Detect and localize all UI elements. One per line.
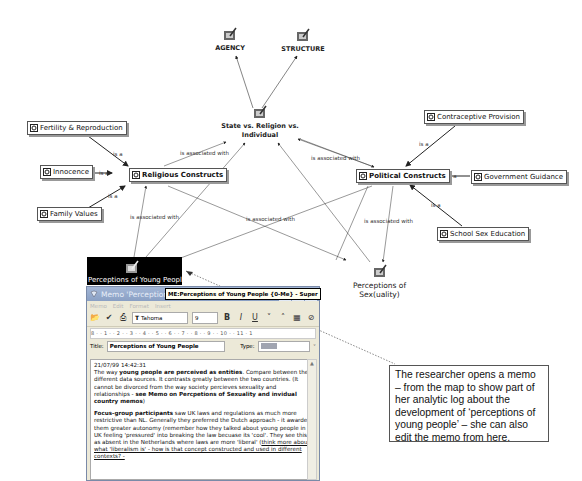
memo-paragraph: The way young people are perceived as en… bbox=[94, 369, 312, 405]
code-node-religious-constructs[interactable]: Religious Constructs bbox=[129, 168, 227, 182]
memo-paragraph: Focus-group participants saw UK laws and… bbox=[94, 410, 312, 460]
chevron-up-icon[interactable]: ˄ bbox=[278, 313, 288, 323]
code-node-school-sex-education[interactable]: School Sex Education bbox=[437, 227, 529, 241]
scroll-up-icon[interactable]: ▲ bbox=[308, 360, 316, 366]
font-size-select[interactable]: 9 bbox=[192, 312, 218, 324]
code-icon bbox=[359, 172, 367, 180]
code-node-family-values[interactable]: Family Values bbox=[37, 207, 102, 221]
folder-icon[interactable]: 📂 bbox=[90, 313, 100, 323]
chevron-down-icon[interactable]: ˅ bbox=[264, 313, 274, 323]
menu-memo[interactable]: Memo bbox=[90, 303, 107, 309]
link-label-is-a: is a bbox=[431, 202, 441, 208]
code-node-label: Government Guidance bbox=[484, 173, 563, 181]
checkmark-icon[interactable]: ✔ bbox=[104, 313, 114, 323]
paperclip-icon[interactable]: ⊘ bbox=[306, 313, 316, 323]
memo-node-label: Perceptions of Sex(uality) bbox=[353, 281, 406, 299]
memo-scrollbar[interactable]: ▲ bbox=[307, 359, 317, 480]
title-row: Title: Perceptions of Young People Type:… bbox=[87, 340, 319, 352]
ruler[interactable]: 8 · · 1 · · 2 · · 3 · · 4 · · 5 · · 6 · … bbox=[90, 328, 316, 339]
memo-node-label: AGENCY bbox=[215, 44, 245, 52]
memo-node-label: Individual bbox=[220, 131, 300, 140]
memo-node-structure[interactable]: STRUCTURE bbox=[278, 27, 328, 53]
memo-timestamp: 21/07/99 14:42:31 bbox=[94, 362, 312, 369]
insert-object-icon[interactable]: ▦ bbox=[292, 313, 302, 323]
type-label: Type: bbox=[240, 343, 255, 349]
font-select[interactable]: TTahoma bbox=[132, 312, 188, 324]
link-label-associated: is associated with bbox=[364, 218, 413, 224]
code-icon bbox=[440, 230, 448, 238]
print-icon[interactable]: ⎙ bbox=[118, 313, 128, 323]
code-icon bbox=[40, 210, 48, 218]
memo-node-agency[interactable]: AGENCY bbox=[210, 26, 250, 52]
underline-button[interactable]: U bbox=[250, 313, 260, 323]
code-node-government-guidance[interactable]: Government Guidance bbox=[471, 170, 567, 184]
code-node-innocence[interactable]: Innocence bbox=[40, 165, 93, 179]
menu-edit[interactable]: Edit bbox=[113, 303, 124, 309]
memo-node-perceptions-young-people[interactable]: Perceptions of Young People bbox=[87, 257, 182, 285]
memo-icon bbox=[222, 26, 238, 42]
memo-icon bbox=[124, 259, 140, 275]
memo-node-state-religion-individual[interactable]: State vs. Religion vs. Individual bbox=[220, 104, 300, 139]
memo-node-perceptions-sexuality[interactable]: Perceptions of Sex(uality) bbox=[332, 263, 427, 299]
title-label: Title: bbox=[90, 343, 104, 349]
link-label-is-a: is a bbox=[113, 151, 123, 157]
annotation-callout: The researcher opens a memo – from the m… bbox=[389, 365, 549, 442]
link-label-is-a: is a bbox=[108, 193, 118, 199]
menu-format[interactable]: Format bbox=[130, 303, 149, 309]
code-icon bbox=[30, 124, 38, 132]
memo-icon bbox=[372, 263, 388, 279]
memo-icon bbox=[252, 104, 268, 120]
code-node-label: School Sex Education bbox=[450, 230, 525, 238]
bold-button[interactable]: B bbox=[222, 313, 232, 323]
memo-node-label: Perceptions of Young People bbox=[88, 276, 186, 284]
memo-window-icon bbox=[90, 290, 98, 298]
code-node-label: Fertility & Reproduction bbox=[40, 124, 123, 132]
code-node-fertility-reproduction[interactable]: Fertility & Reproduction bbox=[27, 121, 127, 135]
memo-window: Memo 'Perceptions of _ □ × Memo Edit For… bbox=[86, 286, 320, 481]
code-node-contraceptive-provision[interactable]: Contraceptive Provision bbox=[424, 110, 524, 124]
memo-node-label: STRUCTURE bbox=[281, 45, 324, 53]
memo-node-label: State vs. Religion vs. bbox=[220, 122, 300, 131]
code-icon bbox=[427, 113, 435, 121]
menu-insert[interactable]: Insert bbox=[155, 303, 171, 309]
code-node-label: Innocence bbox=[53, 168, 89, 176]
memo-icon bbox=[295, 27, 311, 43]
code-icon bbox=[43, 168, 51, 176]
code-icon bbox=[132, 171, 140, 179]
link-label-associated: is associated with bbox=[180, 150, 229, 156]
code-icon bbox=[474, 173, 482, 181]
link-label-associated: is associated with bbox=[311, 155, 360, 161]
code-node-political-constructs[interactable]: Political Constructs bbox=[356, 169, 450, 183]
code-node-label: Political Constructs bbox=[369, 172, 446, 180]
memo-menubar: Memo Edit Format Insert bbox=[87, 301, 319, 310]
link-label-is-a: is a bbox=[419, 141, 429, 147]
link-label-associated: is associated with bbox=[246, 216, 295, 222]
italic-button[interactable]: I bbox=[236, 313, 246, 323]
link-label-is-a: is a bbox=[99, 170, 109, 176]
chevron-down-icon[interactable]: ˅ bbox=[313, 343, 316, 350]
memo-body[interactable]: 21/07/99 14:42:31 The way young people a… bbox=[90, 359, 316, 480]
link-label-associated: is associated with bbox=[130, 214, 179, 220]
code-node-label: Religious Constructs bbox=[142, 171, 223, 179]
memo-toolbar: 📂 ✔ ⎙ TTahoma 9 B I U ˅ ˄ ▦ ⊘ bbox=[87, 310, 319, 327]
code-node-label: Family Values bbox=[50, 210, 98, 218]
type-select[interactable] bbox=[258, 341, 310, 352]
tooltip: ME:Perceptions of Young People {0-Me} - … bbox=[165, 288, 321, 300]
title-input[interactable]: Perceptions of Young People bbox=[107, 341, 225, 352]
code-node-label: Contraceptive Provision bbox=[437, 113, 520, 121]
